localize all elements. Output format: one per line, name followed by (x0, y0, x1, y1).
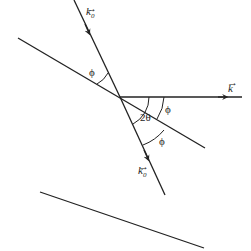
two-theta-label: 2θ (140, 111, 151, 123)
svg-text:→: → (227, 76, 238, 88)
phi-upper-arc (97, 73, 108, 84)
svg-text:→: → (86, 2, 97, 14)
svg-text:→: → (138, 160, 149, 172)
upper-lattice-plane (18, 38, 205, 148)
lower-lattice-plane (40, 192, 204, 248)
incident-ray (74, 0, 120, 97)
phi-lower-label: ϕ (159, 135, 165, 147)
phi-upper-label: ϕ (89, 66, 95, 78)
phi-right-arc (157, 97, 164, 119)
incident-arrow-icon (85, 24, 89, 33)
transmitted-arrow-icon (144, 150, 148, 159)
phi-right-label: ϕ (165, 103, 171, 115)
bragg-diagram: k0 → ϕ 2θ ϕ ϕ k → k0 → (0, 0, 251, 251)
